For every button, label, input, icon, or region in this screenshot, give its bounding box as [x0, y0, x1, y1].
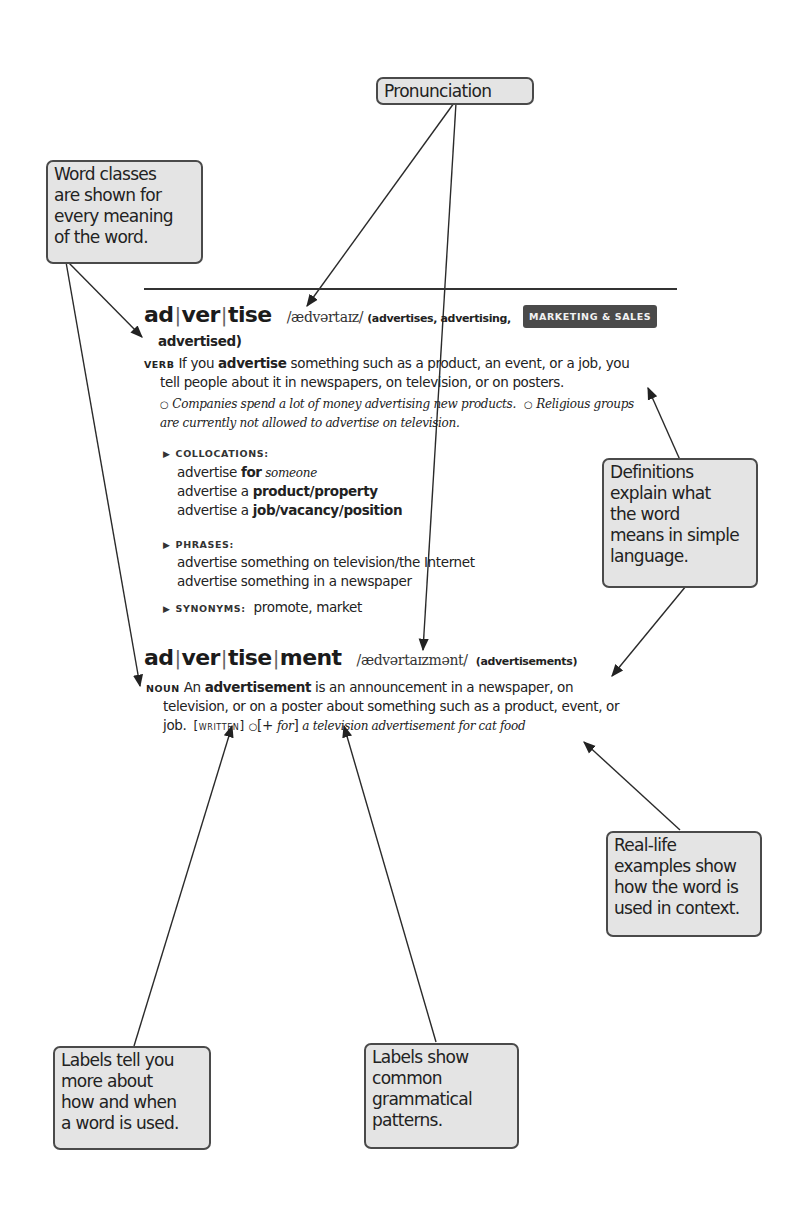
arrow-word-classes-verb	[68, 262, 142, 337]
entry1-definition-line1: VERBIf you advertise something such as a…	[144, 354, 629, 374]
example-marker: ○	[249, 721, 257, 732]
entry1-pronunciation: /ædvərtaɪz/	[287, 309, 363, 325]
arrow-pronunciation-1	[307, 103, 454, 306]
collocation-keyword: product/property	[253, 483, 378, 499]
arrow-definitions-verb	[648, 388, 680, 460]
entry1-word-class: VERB	[144, 359, 174, 370]
def-text: If you	[178, 355, 218, 371]
syllable: ad	[144, 645, 173, 670]
entry1-headword: ad|ver|tise	[144, 302, 279, 327]
grammar-pattern: ]	[293, 717, 298, 733]
example-sentence: Religious groups	[536, 397, 634, 411]
arrow-examples	[584, 742, 680, 830]
section-label: PHRASES:	[176, 539, 234, 550]
example-marker: ○	[160, 399, 168, 410]
entry-divider	[144, 288, 677, 290]
arrow-labels-grammar	[344, 726, 436, 1042]
collocation-text: advertise a	[177, 483, 253, 499]
arrow-labels-usage	[134, 726, 232, 1046]
phrases-heading: ▶PHRASES:	[163, 534, 234, 555]
phrase-item: advertise something on television/the In…	[177, 553, 475, 572]
def-keyword: advertise	[218, 355, 287, 371]
entry2-pronunciation: /ædvərtaɪzmənt/	[357, 652, 468, 668]
callout-labels-grammar: Labels show common grammatical patterns.	[364, 1043, 519, 1149]
entry2-word-class: NOUN	[146, 683, 180, 694]
entry1-definition-line2: tell people about it in newspapers, on t…	[160, 373, 564, 392]
syllable-divider: |	[221, 646, 227, 670]
def-keyword: advertisement	[205, 679, 311, 695]
example-sentence: Companies spend a lot of money advertisi…	[172, 397, 516, 411]
def-text: An	[184, 679, 205, 695]
syllable: tise	[228, 302, 272, 327]
arrow-word-classes-noun	[66, 262, 140, 686]
register-label: [written]	[193, 719, 244, 733]
entry1-inflections: (advertises, advertising,	[367, 312, 511, 325]
example-marker: ○	[524, 399, 532, 410]
def-text: job.	[163, 717, 186, 733]
synonyms-value: promote, market	[254, 599, 362, 615]
arrow-definitions-noun	[612, 586, 686, 676]
callout-examples: Real-life examples show how the word is …	[606, 831, 762, 937]
entry1-examples-line2: are currently not allowed to advertise o…	[160, 414, 460, 433]
entry1-examples-line1: ○ Companies spend a lot of money adverti…	[160, 394, 634, 414]
syllable-divider: |	[174, 303, 180, 327]
collocation-placeholder: someone	[262, 466, 317, 480]
callout-pronunciation: Pronunciation	[376, 77, 534, 105]
entry2-headword-line: ad|ver|tise|ment /ædvərtaɪzmənt/ (advert…	[144, 648, 577, 671]
entry2-headword: ad|ver|tise|ment	[144, 645, 349, 670]
triangle-bullet-icon: ▶	[163, 540, 170, 550]
collocation-item: advertise a job/vacancy/position	[177, 501, 402, 520]
def-text: is an announcement in a newspaper, on	[311, 679, 573, 695]
syllable-divider: |	[221, 303, 227, 327]
callout-word-classes: Word classes are shown for every meaning…	[46, 160, 203, 264]
example-sentence: a television advertisement for cat food	[302, 719, 525, 733]
syllable: ad	[144, 302, 173, 327]
syllable-divider: |	[174, 646, 180, 670]
collocations-heading: ▶COLLOCATIONS:	[163, 443, 269, 464]
entry1-headword-line: ad|ver|tise /ædvərtaɪz/ (advertises, adv…	[144, 305, 657, 328]
syllable: tise	[228, 645, 272, 670]
entry1-inflections-cont: advertised)	[158, 332, 242, 351]
callout-labels-usage: Labels tell you more about how and when …	[53, 1046, 211, 1150]
collocation-text: advertise a	[177, 502, 253, 518]
collocation-item: advertise a product/property	[177, 482, 378, 501]
section-label: COLLOCATIONS:	[176, 448, 269, 459]
collocation-keyword: job/vacancy/position	[253, 502, 402, 518]
entry2-definition-line1: NOUNAn advertisement is an announcement …	[146, 678, 573, 698]
grammar-pattern: [+	[257, 717, 277, 733]
topic-badge: MARKETING & SALES	[523, 305, 657, 328]
entry2-definition-line2: television, or on a poster about somethi…	[163, 697, 619, 716]
section-label: SYNONYMS:	[176, 603, 246, 614]
def-text: something such as a product, an event, o…	[287, 355, 630, 371]
triangle-bullet-icon: ▶	[163, 449, 170, 459]
collocation-text: advertise	[177, 464, 241, 480]
syllable-divider: |	[273, 646, 279, 670]
syllable: ment	[280, 645, 342, 670]
grammar-pattern-word: for	[277, 719, 294, 733]
entry2-inflections: (advertisements)	[476, 655, 577, 668]
syllable: ver	[182, 645, 220, 670]
phrase-item: advertise something in a newspaper	[177, 572, 412, 591]
triangle-bullet-icon: ▶	[163, 604, 170, 614]
callout-definitions: Definitions explain what the word means …	[602, 458, 758, 588]
entry2-definition-line3: job. [written] ○[+ for] a television adv…	[163, 716, 525, 736]
syllable: ver	[182, 302, 220, 327]
collocation-keyword: for	[241, 464, 262, 480]
synonyms-row: ▶SYNONYMS: promote, market	[163, 598, 362, 619]
collocation-item: advertise for someone	[177, 463, 317, 483]
